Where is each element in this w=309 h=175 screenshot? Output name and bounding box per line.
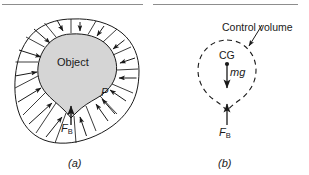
cg-label: CG: [219, 50, 235, 61]
pressure-arrow: [96, 104, 108, 121]
pressure-label: P: [101, 87, 108, 98]
pressure-arrow: [80, 117, 87, 136]
pressure-arrow: [113, 40, 125, 49]
buoyant-force-symbol-a: F: [61, 122, 68, 134]
caption-b: (b): [218, 157, 231, 169]
buoyancy-figure: Object P FB (a) Control volume CG mg FB …: [0, 0, 309, 175]
pressure-arrow: [19, 50, 41, 57]
pressure-arrow: [102, 99, 115, 114]
pressure-arrow: [57, 20, 63, 31]
pressure-arrow: [46, 117, 62, 137]
caption-a: (a): [68, 157, 81, 169]
pressure-arrow: [34, 29, 50, 43]
buoyant-force-label-a: FB: [61, 123, 73, 134]
panel-a-group: [15, 19, 139, 143]
control-volume-label: Control volume: [222, 22, 293, 33]
weight-label: mg: [230, 67, 245, 78]
pressure-arrow: [110, 90, 126, 101]
buoyant-force-label-b: FB: [219, 127, 231, 138]
buoyant-force-subscript-b: B: [226, 131, 231, 140]
buoyant-force-subscript-a: B: [68, 127, 73, 136]
pressure-arrow: [15, 72, 37, 76]
pressure-arrow: [97, 26, 104, 36]
buoyant-force-symbol-b: F: [219, 126, 226, 138]
object-label: Object: [57, 57, 89, 68]
pressure-arrow: [120, 58, 135, 63]
